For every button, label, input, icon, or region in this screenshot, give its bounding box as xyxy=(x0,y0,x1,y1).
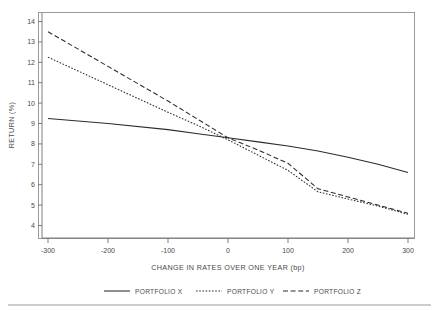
x-tick-label-neg200: -200 xyxy=(101,247,115,254)
y-tick-label-8: 8 xyxy=(31,140,35,147)
return-vs-rate-change-line-chart: 14 13 12 11 10 9 8 7 6 5 4 -300 xyxy=(0,0,439,310)
y-tick-label-11: 11 xyxy=(28,79,35,86)
legend-label-portfolio-x: PORTFOLIO X xyxy=(135,288,183,295)
x-tick-label-0: 0 xyxy=(226,247,230,254)
y-tick-label-7: 7 xyxy=(31,161,35,168)
chart-legend: PORTFOLIO X PORTFOLIO Y PORTFOLIO Z xyxy=(104,288,361,295)
x-tick-label-100: 100 xyxy=(282,247,294,254)
y-tick-label-10: 10 xyxy=(27,100,35,107)
chart-figure: 14 13 12 11 10 9 8 7 6 5 4 -300 xyxy=(0,0,439,310)
y-axis-title: RETURN (%) xyxy=(7,102,16,149)
x-tick-label-neg100: -100 xyxy=(161,247,175,254)
y-tick-label-5: 5 xyxy=(31,202,35,209)
legend-label-portfolio-y: PORTFOLIO Y xyxy=(227,288,275,295)
x-tick-label-200: 200 xyxy=(342,247,354,254)
legend-label-portfolio-z: PORTFOLIO Z xyxy=(314,288,361,295)
x-tick-label-300: 300 xyxy=(402,247,414,254)
x-tick-label-neg300: -300 xyxy=(41,247,55,254)
y-tick-label-12: 12 xyxy=(27,59,35,66)
y-tick-label-4: 4 xyxy=(31,222,35,229)
y-tick-label-9: 9 xyxy=(31,120,35,127)
y-tick-label-14: 14 xyxy=(27,18,35,25)
y-tick-label-6: 6 xyxy=(31,181,35,188)
x-axis-title: CHANGE IN RATES OVER ONE YEAR (bp) xyxy=(151,263,304,272)
y-tick-label-13: 13 xyxy=(27,38,35,45)
